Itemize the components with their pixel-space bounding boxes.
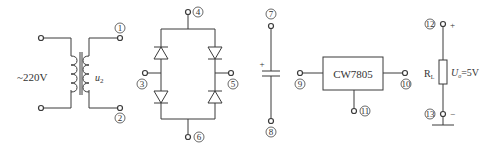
label-7: 7 xyxy=(266,9,276,19)
svg-text:3: 3 xyxy=(140,79,145,89)
svg-text:11: 11 xyxy=(361,106,370,116)
terminal-8 xyxy=(269,119,274,124)
diode-left-bottom xyxy=(154,91,168,103)
terminal-12 xyxy=(441,22,446,27)
label-8: 8 xyxy=(266,127,276,137)
primary-voltage-label: ~220V xyxy=(17,71,47,83)
label-2: 2 xyxy=(115,113,125,123)
terminal-13 xyxy=(441,112,446,117)
terminal-5 xyxy=(229,71,234,76)
terminal-4 xyxy=(186,10,191,15)
primary-coil xyxy=(71,56,77,92)
regulator-label: CW7805 xyxy=(333,68,373,80)
secondary-coil xyxy=(83,56,89,92)
terminal-10 xyxy=(403,71,408,76)
svg-text:13: 13 xyxy=(426,109,436,119)
terminal-3 xyxy=(143,71,148,76)
bridge-rectifier: 4 3 xyxy=(137,7,238,142)
terminal-1 xyxy=(118,36,123,41)
svg-text:2: 2 xyxy=(118,113,123,123)
polarity-plus: + xyxy=(259,59,264,69)
circuit-diagram: ~220V u2 1 2 4 xyxy=(0,0,492,152)
capacitor: 7 + 8 xyxy=(259,9,280,137)
terminal-6 xyxy=(186,135,191,140)
svg-text:4: 4 xyxy=(196,7,201,17)
diode-right-bottom xyxy=(208,91,222,103)
terminal-primary-bottom xyxy=(39,106,44,111)
label-9: 9 xyxy=(295,79,305,89)
diode-left-top xyxy=(154,47,168,59)
output-voltage-label: Uo=5V xyxy=(451,67,480,79)
label-11: 11 xyxy=(360,106,370,116)
terminal-9 xyxy=(298,71,303,76)
svg-text:7: 7 xyxy=(269,9,274,19)
label-6: 6 xyxy=(194,132,204,142)
resistor-body xyxy=(439,60,447,84)
label-4: 4 xyxy=(193,7,203,17)
label-5: 5 xyxy=(228,79,238,89)
terminal-11 xyxy=(352,109,357,114)
minus-sign: − xyxy=(450,109,455,119)
resistor-label: RL xyxy=(424,68,435,80)
svg-text:6: 6 xyxy=(197,132,202,142)
label-1: 1 xyxy=(115,23,125,33)
label-13: 13 xyxy=(425,109,435,119)
svg-text:5: 5 xyxy=(231,79,236,89)
label-12: 12 xyxy=(425,19,435,29)
diode-right-top xyxy=(208,47,222,59)
svg-text:9: 9 xyxy=(298,79,303,89)
svg-text:1: 1 xyxy=(118,23,123,33)
svg-text:10: 10 xyxy=(402,79,412,89)
terminal-primary-top xyxy=(39,36,44,41)
voltage-regulator: CW7805 9 10 11 xyxy=(295,57,411,116)
load-resistor: 12 + RL Uo=5V − 13 xyxy=(424,19,480,125)
label-3: 3 xyxy=(137,79,147,89)
plus-sign: + xyxy=(450,20,455,30)
terminal-7 xyxy=(269,24,274,29)
svg-text:8: 8 xyxy=(269,127,274,137)
secondary-voltage-label: u2 xyxy=(95,72,104,85)
label-10: 10 xyxy=(401,79,411,89)
svg-text:12: 12 xyxy=(426,19,435,29)
terminal-2 xyxy=(118,106,123,111)
transformer: ~220V u2 1 2 xyxy=(17,23,125,123)
